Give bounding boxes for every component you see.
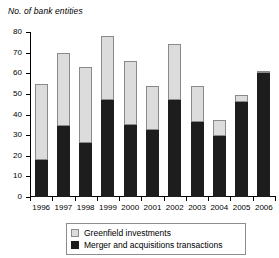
bar-segment-merger-acquisitions [213,136,226,197]
y-axis-tick-label: 60 [0,68,22,77]
bar-segment-merger-acquisitions [191,122,204,197]
y-axis-tick [26,176,30,177]
x-axis-tick [30,196,31,201]
x-axis-tick [275,196,276,201]
x-axis-label: 2002 [164,203,186,213]
bar-segment-merger-acquisitions [257,73,270,197]
y-axis-tick [26,156,30,157]
x-axis-tick [230,196,231,201]
y-axis-tick [26,115,30,116]
bar-group [213,120,226,197]
bar-group [79,67,92,197]
x-axis-label: 2006 [253,203,275,213]
bar-group [35,84,48,197]
x-axis-label: 2000 [119,203,141,213]
x-axis-label: 2003 [186,203,208,213]
bar-segment-greenfield [235,95,248,102]
x-axis-tick [52,196,53,201]
y-axis-tick-label: 20 [0,151,22,160]
chart-legend: Greenfield investments Merger and acquis… [66,223,246,255]
bar-segment-merger-acquisitions [57,126,70,197]
x-axis-tick [186,196,187,201]
x-axis-label: 1997 [52,203,74,213]
legend-item-greenfield: Greenfield investments [71,227,241,239]
bar-group [146,86,159,197]
x-axis-label: 1996 [30,203,52,213]
legend-item-merger-acquisitions: Merger and acquisitions transactions [71,239,241,251]
bar-segment-greenfield [146,86,159,130]
plot-area [30,32,275,197]
x-axis-label: 1999 [97,203,119,213]
y-axis-tick [26,53,30,54]
legend-swatch-merger-icon [71,241,79,249]
y-axis-tick-label: 80 [0,27,22,36]
bar-group [235,95,248,197]
y-axis-tick-label: 70 [0,48,22,57]
y-axis-title: No. of bank entities [8,6,83,16]
bar-segment-greenfield [213,120,226,137]
x-axis-tick [75,196,76,201]
x-axis-label: 1998 [75,203,97,213]
bar-segment-greenfield [57,53,70,126]
y-axis-tick-label: 0 [0,192,22,201]
x-axis-tick [141,196,142,201]
bar-segment-greenfield [35,84,48,160]
bar-group [257,71,270,197]
x-axis-label: 2001 [141,203,163,213]
bar-segment-merger-acquisitions [79,143,92,197]
x-axis-tick [164,196,165,201]
bar-segment-greenfield [191,86,204,122]
bars-container [30,32,275,197]
bar-segment-greenfield [79,67,92,143]
bar-segment-merger-acquisitions [235,102,248,197]
bar-segment-merger-acquisitions [35,160,48,197]
bar-group [168,44,181,197]
y-axis-tick-label: 40 [0,110,22,119]
bar-segment-merger-acquisitions [146,130,159,197]
y-axis-tick-label: 50 [0,89,22,98]
y-axis-tick-label: 30 [0,130,22,139]
y-axis-tick [26,32,30,33]
bar-segment-greenfield [168,44,181,100]
bar-group [101,36,114,197]
bar-segment-greenfield [101,36,114,100]
bar-group [124,61,137,197]
y-axis-tick [26,73,30,74]
bar-segment-merger-acquisitions [168,100,181,197]
bar-group [57,53,70,197]
bar-group [191,86,204,197]
x-axis-tick [208,196,209,201]
y-axis-tick [26,94,30,95]
bar-segment-merger-acquisitions [124,125,137,197]
x-axis-tick [119,196,120,201]
bar-segment-merger-acquisitions [101,100,114,197]
legend-label-greenfield: Greenfield investments [84,228,171,238]
x-axis-tick [253,196,254,201]
legend-label-merger-acquisitions: Merger and acquisitions transactions [84,240,222,250]
y-axis-tick [26,135,30,136]
bank-entities-bar-chart: No. of bank entities 01020304050607080 1… [0,0,279,258]
y-axis-tick-label: 10 [0,171,22,180]
x-axis-label: 2004 [208,203,230,213]
x-axis-label: 2005 [230,203,252,213]
legend-swatch-greenfield-icon [71,229,79,237]
bar-segment-greenfield [124,61,137,125]
x-axis-labels: 1996199719981999200020012002200320042005… [30,203,275,215]
x-axis-tick [97,196,98,201]
